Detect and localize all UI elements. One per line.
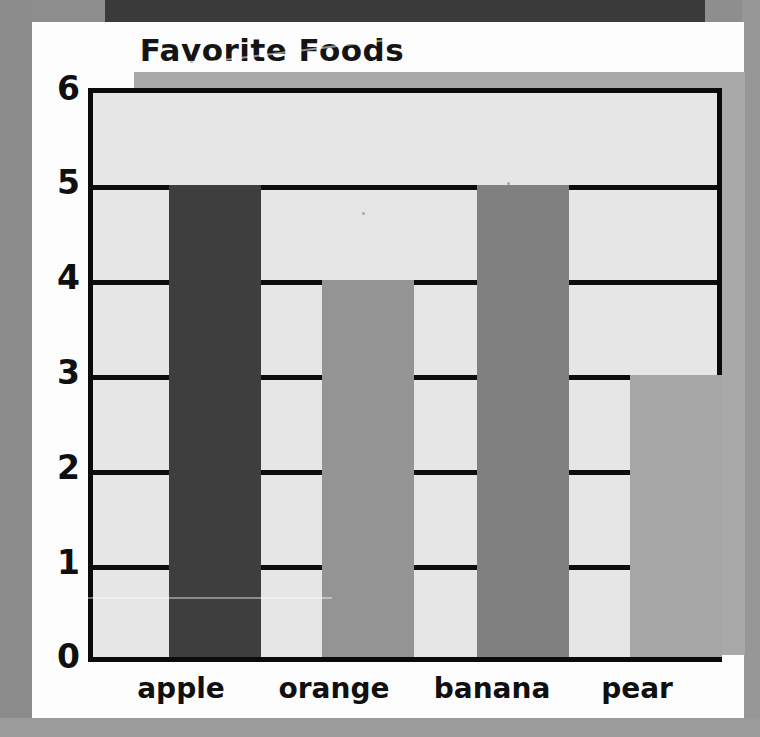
y-tick-label-5: 5 <box>34 166 80 199</box>
bar-pear[interactable] <box>630 375 722 657</box>
scan-speck <box>190 60 193 63</box>
x-tick-label-orange: orange <box>259 672 409 705</box>
y-tick-label-3: 3 <box>34 356 80 389</box>
plot-area <box>88 88 722 662</box>
x-tick-label-pear: pear <box>577 672 697 705</box>
scan-speck <box>507 182 510 185</box>
scanned-page: Favorite Foods 6 5 4 3 2 1 0 <box>0 0 760 737</box>
page-bottom-band <box>0 718 760 737</box>
x-tick-label-banana: banana <box>412 672 572 705</box>
scan-speck <box>362 212 365 215</box>
scan-crease <box>32 597 332 599</box>
bar-banana[interactable] <box>477 185 569 657</box>
y-tick-label-4: 4 <box>34 261 80 294</box>
page-left-margin <box>0 0 32 737</box>
x-tick-label-apple: apple <box>116 672 246 705</box>
bar-apple[interactable] <box>169 185 261 657</box>
bar-orange[interactable] <box>322 280 414 657</box>
page-top-dark-band <box>105 0 705 22</box>
chart-title: Favorite Foods <box>32 32 512 68</box>
y-tick-label-6: 6 <box>34 72 80 105</box>
plot-inner <box>93 93 717 657</box>
y-tick-label-2: 2 <box>34 451 80 484</box>
chart-card: Favorite Foods 6 5 4 3 2 1 0 <box>32 22 744 718</box>
y-tick-label-0: 0 <box>34 640 80 673</box>
y-tick-label-1: 1 <box>34 546 80 579</box>
